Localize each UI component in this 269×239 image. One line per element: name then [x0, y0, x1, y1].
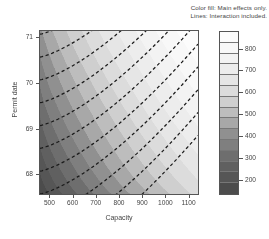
contour-line — [40, 44, 198, 171]
colorbar-cell — [220, 172, 238, 183]
x-tick-label-1100: 1100 — [176, 199, 202, 206]
y-tick-mark — [36, 37, 39, 38]
colorbar-cell — [220, 162, 238, 173]
colorbar-cell — [220, 64, 238, 75]
annotation-line-fill: Color fill: Main effects only. — [131, 4, 267, 12]
colorbar-tick-mark — [239, 180, 243, 181]
x-tick-mark — [49, 195, 50, 198]
colorbar-cell — [220, 97, 238, 108]
contour-plot-panel — [39, 30, 199, 195]
colorbar-label-300: 300 — [245, 154, 256, 161]
contour-line — [129, 135, 198, 194]
colorbar-tick-mark — [239, 136, 243, 137]
colorbar-cell — [220, 151, 238, 162]
colorbar-label-200: 200 — [245, 176, 256, 183]
contour-line — [40, 31, 76, 34]
y-tick-label-68: 68 — [11, 170, 33, 177]
colorbar-cell — [220, 129, 238, 140]
x-axis-title: Capacity — [39, 214, 199, 221]
contour-line — [40, 31, 159, 103]
colorbar-cell — [220, 54, 238, 65]
colorbar-cell — [220, 140, 238, 151]
colorbar-tick-mark — [239, 70, 243, 71]
contour-line — [40, 31, 198, 148]
colorbar-cell — [220, 75, 238, 86]
x-tick-mark — [96, 195, 97, 198]
colorbar-cell — [220, 108, 238, 119]
colorbar-label-400: 400 — [245, 132, 256, 139]
colorbar-cell — [220, 86, 238, 97]
x-tick-label-700: 700 — [83, 199, 109, 206]
contour-line — [40, 31, 180, 126]
contour-line — [66, 90, 198, 194]
colorbar-cell — [220, 118, 238, 129]
colorbar-cell — [220, 43, 238, 54]
x-tick-mark — [119, 195, 120, 198]
annotation-line-contour: Lines: Interaction included. — [131, 12, 267, 20]
y-tick-label-69: 69 — [11, 125, 33, 132]
y-tick-mark — [36, 174, 39, 175]
x-tick-mark — [189, 195, 190, 198]
contour-line — [40, 31, 107, 57]
x-tick-label-600: 600 — [60, 199, 86, 206]
colorbar-label-800: 800 — [245, 45, 256, 52]
colorbar-tick-mark — [239, 92, 243, 93]
colorbar-cell — [220, 183, 238, 194]
y-tick-mark — [36, 129, 39, 130]
chart-annotation: Color fill: Main effects only. Lines: In… — [131, 4, 267, 20]
x-tick-label-500: 500 — [36, 199, 62, 206]
x-tick-mark — [165, 195, 166, 198]
contour-line — [101, 113, 198, 195]
x-tick-label-900: 900 — [129, 199, 155, 206]
colorbar-tick-mark — [239, 158, 243, 159]
colorbar-cell — [220, 32, 238, 43]
x-tick-label-800: 800 — [106, 199, 132, 206]
contour-line — [40, 67, 198, 194]
y-tick-mark — [36, 83, 39, 84]
y-tick-label-70: 70 — [11, 79, 33, 86]
x-tick-label-1000: 1000 — [152, 199, 178, 206]
contour-line — [40, 31, 135, 80]
y-tick-label-71: 71 — [11, 33, 33, 40]
contour-lines-layer — [40, 31, 198, 194]
colorbar-tick-mark — [239, 49, 243, 50]
colorbar-label-600: 600 — [245, 88, 256, 95]
x-tick-mark — [142, 195, 143, 198]
colorbar-legend — [219, 31, 239, 195]
x-tick-mark — [73, 195, 74, 198]
colorbar-label-700: 700 — [245, 66, 256, 73]
colorbar-label-500: 500 — [245, 110, 256, 117]
colorbar-tick-mark — [239, 114, 243, 115]
